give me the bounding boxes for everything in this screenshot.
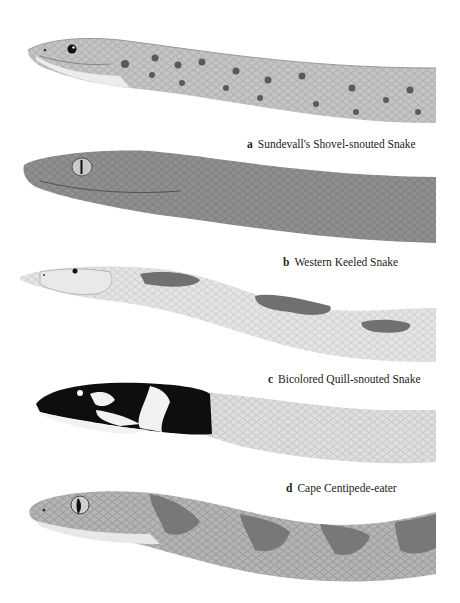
snake-illustration-plate: aSundevall's Shovel-snouted Snake bWeste… xyxy=(0,0,460,603)
snake-a-drawing xyxy=(0,28,460,138)
snake-b-drawing xyxy=(0,145,460,255)
snake-c-head-drawing xyxy=(0,380,460,470)
illustration-d xyxy=(0,488,460,600)
illustration-b xyxy=(0,145,460,255)
snake-d-drawing xyxy=(0,488,460,600)
illustration-c-head xyxy=(0,380,460,470)
illustration-c xyxy=(0,262,460,372)
illustration-a xyxy=(0,28,460,138)
snake-c-drawing xyxy=(0,262,460,372)
